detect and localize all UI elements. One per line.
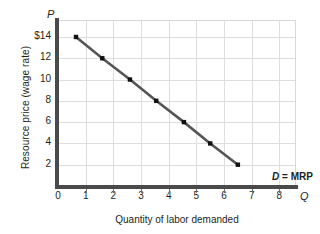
data-point-marker [208,141,212,145]
x-tick-label: 0 [48,190,68,201]
x-tick-mark [141,189,142,193]
y-tick-label: 10 [0,73,51,84]
data-point-marker [100,56,104,60]
x-tick-mark [224,189,225,193]
x-axis-line [55,185,298,189]
x-tick-mark [252,189,253,193]
y-axis-letter: P [47,8,54,20]
y-tick-label: 8 [0,94,51,105]
data-point-marker [74,35,78,39]
y-tick-label: 12 [0,51,51,62]
x-tick-mark [279,189,280,193]
plot-area: D = MRP [58,20,296,185]
y-tick-label: $14 [0,30,51,41]
y-axis-line [55,18,59,187]
x-tick-mark [169,189,170,193]
curve-annotation: D = MRP [272,171,313,182]
chart-figure: Resource price (wage rate) P Q D = MRP 2… [0,0,320,234]
x-axis-letter: Q [300,190,309,202]
y-tick-label: 6 [0,115,51,126]
data-point-marker [182,120,186,124]
data-point-marker [128,77,132,81]
x-tick-mark [196,189,197,193]
x-tick-mark [113,189,114,193]
curve-annotation-rest: = MRP [279,171,313,182]
data-point-marker [154,99,158,103]
demand-curve-svg [58,21,296,186]
x-axis-title: Quantity of labor demanded [58,214,296,225]
data-point-marker [236,163,240,167]
y-tick-label: 2 [0,158,51,169]
x-tick-mark [86,189,87,193]
y-tick-label: 4 [0,136,51,147]
